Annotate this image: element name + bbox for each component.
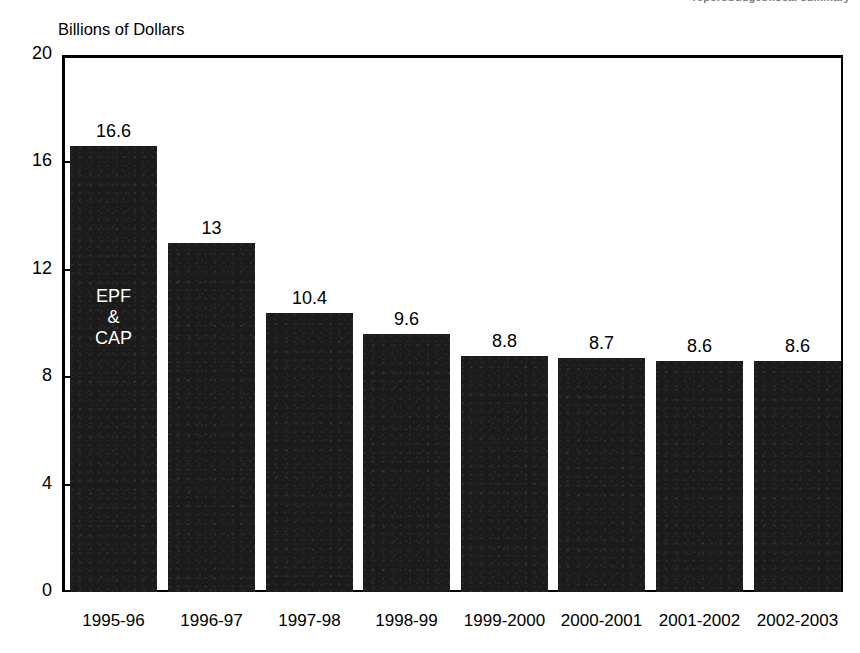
bar-value-label: 8.8 (492, 332, 517, 350)
y-tick-label: 12 (10, 259, 52, 277)
bar-value-label: 8.7 (589, 334, 614, 352)
x-axis-category-label: 2002-2003 (757, 612, 838, 629)
y-tick-label: 16 (10, 151, 52, 169)
bar-value-label: 10.4 (292, 289, 327, 307)
bar: 8.7 (558, 358, 645, 592)
bar-value-label: 13 (201, 219, 221, 237)
x-axis-category-label: 1996-97 (180, 612, 242, 629)
bar: 8.6 (656, 361, 743, 592)
clipped-header-note: report/budget/fiscal summary (430, 0, 850, 3)
x-axis-category-label: 1995-96 (82, 612, 144, 629)
x-axis-category-label: 1998-99 (375, 612, 437, 629)
bar: 13 (168, 243, 255, 592)
x-axis-category-label: 2000-2001 (561, 612, 642, 629)
bar: 16.6EPF & CAP (70, 146, 157, 592)
bar-value-label: 8.6 (687, 337, 712, 355)
x-axis-category-label: 2001-2002 (659, 612, 740, 629)
bar-chart-figure: report/budget/fiscal summary Billions of… (0, 0, 860, 653)
x-axis-category-label: 1999-2000 (464, 612, 545, 629)
bar: 10.4 (266, 313, 353, 592)
bar-value-label: 8.6 (785, 337, 810, 355)
bar: 9.6 (363, 334, 450, 592)
bar-value-label: 16.6 (96, 122, 131, 140)
y-tick-label: 20 (10, 44, 52, 62)
bar: 8.8 (461, 356, 548, 592)
y-tick-label: 0 (10, 581, 52, 599)
plot-area: 20161284016.6EPF & CAP1310.49.68.88.78.6… (62, 55, 843, 592)
bar: 8.6 (754, 361, 841, 592)
y-tick-label: 8 (10, 366, 52, 384)
y-axis-title: Billions of Dollars (58, 21, 185, 38)
x-axis-category-label: 1997-98 (278, 612, 340, 629)
bar-inline-annotation: EPF & CAP (95, 286, 132, 350)
bar-value-label: 9.6 (394, 310, 419, 328)
y-tick-label: 4 (10, 474, 52, 492)
